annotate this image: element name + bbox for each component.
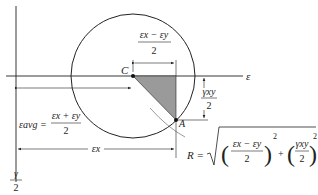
ex-label: εx <box>92 143 101 154</box>
radius-term1-denominator: 2 <box>245 153 250 164</box>
point-a-label: A <box>178 118 186 129</box>
shear-numerator: γxy <box>203 86 216 97</box>
mohr-circle-diagram: ε C A εx − εy 2 γxy 2 εavg = εx + εy 2 ε… <box>0 0 318 195</box>
center-point <box>131 74 135 78</box>
radius-exp-2: 2 <box>313 132 317 141</box>
half-diff-denominator: 2 <box>152 45 157 56</box>
radius-term1-numerator: εx − εy <box>233 138 262 149</box>
gamma-axis-denominator: 2 <box>14 182 19 193</box>
avg-lhs: εavg = <box>19 119 47 130</box>
shear-denominator: 2 <box>207 100 212 111</box>
avg-numerator: εx + εy <box>52 110 81 121</box>
half-diff-numerator: εx − εy <box>140 29 169 40</box>
point-a <box>174 118 178 122</box>
paren-close-1: ) <box>264 141 272 167</box>
radius-term2-denominator: 2 <box>300 153 305 164</box>
radius-lhs: R = <box>186 149 204 161</box>
radius-term2-numerator: γxy <box>296 138 309 149</box>
paren-open-2: ( <box>287 141 295 167</box>
radius-exp-1: 2 <box>273 132 277 141</box>
epsilon-axis-label: ε <box>246 70 251 82</box>
gamma-axis-numerator: γ <box>14 168 19 179</box>
center-label: C <box>121 64 129 76</box>
shaded-triangle <box>133 76 176 120</box>
plus-sign: + <box>278 148 284 159</box>
paren-open-1: ( <box>221 141 229 167</box>
avg-denominator: 2 <box>64 125 69 136</box>
paren-close-2: ) <box>309 141 317 167</box>
